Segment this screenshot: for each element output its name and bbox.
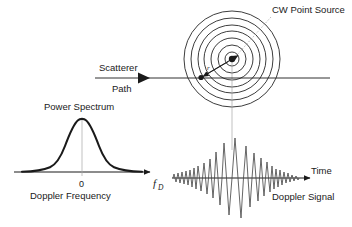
scatterer-dot <box>198 75 203 80</box>
path-label: Path <box>112 83 132 94</box>
point-source-dot <box>229 56 235 62</box>
power-spectrum-zero-tick: 0 <box>79 179 84 189</box>
power-spectrum-title: Power Spectrum <box>44 101 114 112</box>
doppler-frequency-label: Doppler Frequency <box>30 190 111 201</box>
doppler-signal-chart: Time Doppler Signal <box>172 138 334 218</box>
fd-axis-subscript: D <box>157 183 164 192</box>
power-spectrum-chart: Power Spectrum 0 Doppler Frequency f D <box>14 101 164 201</box>
diagram-canvas: r CW Point Source Scatterer Path Power S… <box>0 0 352 227</box>
cw-point-source-leader <box>236 17 271 56</box>
doppler-diagram: r CW Point Source Scatterer Path Power S… <box>0 0 352 227</box>
time-axis-label: Time <box>311 165 332 176</box>
range-label: r <box>207 64 210 72</box>
cw-point-source-label: CW Point Source <box>272 4 345 15</box>
scatterer-path-arrowhead <box>138 73 150 84</box>
scatterer-label: Scatterer <box>99 62 138 73</box>
doppler-signal-label: Doppler Signal <box>272 191 334 202</box>
